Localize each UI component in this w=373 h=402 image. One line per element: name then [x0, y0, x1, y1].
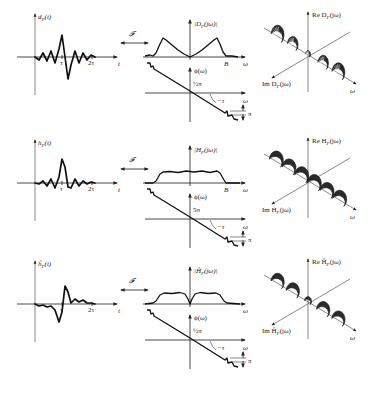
magnitude-plot: |ĤF(jω)| ω: [143, 267, 248, 315]
omega-axis-label: ω: [350, 87, 355, 95]
linear-phase-line: [147, 63, 238, 120]
slope-arc: [210, 94, 216, 103]
magnitude-label: |HF(jω)|: [194, 146, 218, 155]
slope-arc: [210, 220, 216, 229]
phase-plot: ϕ(ω) 5π ω −τ π: [145, 189, 252, 248]
omega-axis-label: ω: [350, 334, 355, 342]
rows-container: dF(t) t τ 2τ 𝓕 |DF(jω)| B ω ϕ(ω) ½: [17, 11, 356, 369]
magnitude-x-label: ω: [243, 186, 248, 194]
tick-label-2tau: 2τ: [88, 59, 95, 67]
fourier-symbol: 𝓕: [129, 277, 137, 285]
phase-intercept-label: 5π: [193, 206, 201, 214]
time-y-label: ĥF(t): [38, 260, 52, 269]
helix-coil: [320, 182, 334, 198]
linear-phase-line: [147, 189, 238, 246]
phase-label: ϕ(ω): [194, 193, 208, 201]
magnitude-curve: [145, 171, 240, 183]
phase-label: ϕ(ω): [194, 67, 208, 75]
fourier-transform-arrow: 𝓕: [121, 156, 148, 169]
im-axis-label: Im ĤF(jω): [262, 327, 292, 336]
impulse-response-curve: [35, 159, 95, 188]
phase-label: ϕ(ω): [194, 314, 208, 322]
time-y-label: hF(t): [38, 139, 52, 148]
magnitude-label: |DF(jω)|: [194, 20, 218, 29]
im-axis-label: Im HF(jω): [262, 206, 292, 215]
helix-coil: [332, 311, 345, 326]
tick-label-2tau: 2τ: [88, 185, 95, 193]
helix-3d-plot: Re HF(jω) Im HF(jω) ω: [262, 137, 356, 221]
helix-coil: [295, 167, 309, 183]
time-x-label: t: [118, 307, 121, 315]
fourier-symbol: 𝓕: [129, 30, 137, 38]
magnitude-x-label: ω: [243, 307, 248, 315]
phase-intercept-label: ½π: [193, 80, 202, 88]
phase-intercept-label: ½π: [193, 327, 202, 335]
helix-3d-plot: Re ĤF(jω) Im ĤF(jω) ω: [262, 258, 356, 342]
phase-plot: ϕ(ω) ½π ω −τ π: [145, 310, 252, 369]
slope-arc: [210, 341, 216, 350]
magnitude-label: |ĤF(jω)|: [194, 267, 218, 276]
fourier-symbol: 𝓕: [129, 156, 137, 164]
magnitude-plot: |DF(jω)| B ω: [143, 20, 248, 68]
helix-coil: [286, 283, 299, 298]
re-axis-label: Re ĤF(jω): [312, 258, 342, 267]
phase-slope-label: −τ: [217, 97, 225, 105]
time-domain-plot: hF(t) t τ 2τ: [17, 139, 121, 221]
bandwidth-marker-B: B: [224, 186, 229, 194]
figure-row-h: hF(t) t τ 2τ 𝓕 |HF(jω)| B ω ϕ(ω) 5: [17, 137, 356, 248]
figure-row-hhat: ĥF(t) t τ 2τ 𝓕 |ĤF(jω)| ω ϕ(ω) ½π: [17, 258, 356, 369]
helix-3d-plot: Re DF(jω) Im DF(jω) ω: [262, 11, 356, 95]
helix-coil: [307, 175, 321, 191]
phase-slope-label: −τ: [217, 223, 225, 231]
omega-axis-label: ω: [350, 213, 355, 221]
magnitude-x-label: ω: [243, 60, 248, 68]
phase-jump-label: π: [248, 357, 252, 365]
figure-row-d: dF(t) t τ 2τ 𝓕 |DF(jω)| B ω ϕ(ω) ½: [17, 11, 356, 122]
re-axis-label: Re DF(jω): [312, 11, 342, 20]
magnitude-curve: [145, 38, 238, 57]
fourier-transform-arrow: 𝓕: [121, 277, 148, 290]
phase-plot: ϕ(ω) ½π ω −τ π: [145, 63, 252, 122]
fourier-pairs-figure: dF(t) t τ 2τ 𝓕 |DF(jω)| B ω ϕ(ω) ½: [0, 0, 373, 402]
helix-coil: [317, 302, 330, 317]
phase-x-label: ω: [243, 344, 248, 352]
phase-jump-label: π: [248, 110, 252, 118]
phase-slope-label: −τ: [217, 344, 225, 352]
fourier-transform-arrow: 𝓕: [121, 30, 148, 43]
phase-x-label: ω: [243, 97, 248, 105]
time-x-label: t: [118, 186, 121, 194]
im-axis-label: Im DF(jω): [262, 80, 292, 89]
helix-coil: [282, 159, 296, 175]
tick-label-tau: τ: [60, 185, 63, 193]
phase-x-label: ω: [243, 223, 248, 231]
helix-coil: [333, 190, 347, 206]
bandwidth-marker-B: B: [224, 60, 229, 68]
tick-label-tau: τ: [60, 59, 63, 67]
time-domain-plot: dF(t) t τ 2τ: [17, 13, 121, 95]
time-y-label: dF(t): [38, 13, 52, 22]
re-axis-label: Re HF(jω): [312, 137, 342, 146]
helix-coil: [332, 63, 345, 80]
tick-label-2tau: 2τ: [88, 306, 95, 314]
phase-jump-label: π: [248, 236, 252, 244]
linear-phase-line: [147, 310, 238, 367]
time-domain-plot: ĥF(t) t τ 2τ: [17, 260, 121, 342]
magnitude-curve: [145, 293, 240, 305]
time-x-label: t: [118, 60, 121, 68]
magnitude-plot: |HF(jω)| B ω: [143, 146, 248, 194]
